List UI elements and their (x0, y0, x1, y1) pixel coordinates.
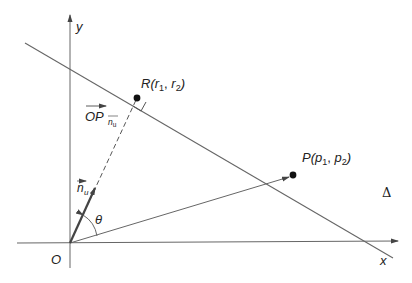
point-p (290, 172, 297, 179)
diagram-canvas: y x O Δ R(r1, r2) P(p1, p2) OP nu n u θ (0, 0, 412, 283)
unit-normal-vector (70, 188, 95, 243)
vector-op (70, 177, 289, 243)
point-r (134, 95, 141, 102)
point-r-label: R(r1, r2) (141, 76, 185, 93)
angle-theta-label: θ (95, 212, 102, 227)
svg-text:OP: OP (85, 109, 104, 124)
point-p-label: P(p1, p2) (302, 150, 351, 167)
projection-label: OP nu (85, 106, 118, 128)
svg-text:n: n (77, 181, 84, 195)
y-axis-label: y (75, 19, 84, 34)
svg-text:u: u (84, 188, 89, 197)
x-axis-label: x (379, 253, 387, 268)
line-delta-label: Δ (382, 185, 391, 200)
svg-text:nu: nu (108, 117, 117, 128)
unit-normal-label: n u (77, 181, 89, 197)
origin-label: O (51, 252, 61, 267)
